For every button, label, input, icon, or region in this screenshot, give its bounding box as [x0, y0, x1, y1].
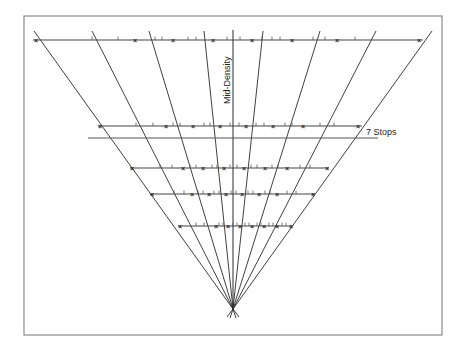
scale-row: ××××××××	[98, 123, 362, 130]
density-ray	[233, 31, 376, 309]
x-mark: ×	[271, 123, 275, 130]
x-mark: ×	[133, 37, 137, 44]
x-mark: ×	[201, 165, 205, 172]
density-ray	[92, 31, 233, 309]
seven-stops-label: 7 Stops	[366, 127, 397, 137]
density-ray	[149, 31, 233, 309]
x-mark: ×	[356, 123, 360, 130]
x-mark: ×	[325, 165, 329, 172]
x-mark: ×	[250, 37, 254, 44]
x-mark: ×	[301, 123, 305, 130]
x-mark: ×	[218, 123, 222, 130]
x-mark: ×	[289, 223, 293, 230]
x-mark: ×	[275, 191, 279, 198]
x-mark: ×	[226, 223, 230, 230]
x-mark: ×	[222, 165, 226, 172]
x-mark: ×	[164, 123, 168, 130]
x-mark: ×	[178, 223, 182, 230]
x-mark: ×	[250, 223, 254, 230]
x-mark: ×	[335, 37, 339, 44]
scale-row: ××××××××	[130, 165, 329, 172]
x-mark: ×	[207, 191, 211, 198]
x-mark: ×	[242, 165, 246, 172]
scale-row: ××××××××	[33, 37, 423, 44]
x-mark: ×	[238, 223, 242, 230]
x-mark: ×	[34, 37, 38, 44]
x-mark: ×	[311, 191, 315, 198]
x-mark: ×	[275, 223, 279, 230]
x-mark: ×	[417, 37, 421, 44]
x-mark: ×	[150, 191, 154, 198]
x-mark: ×	[240, 191, 244, 198]
x-mark: ×	[290, 37, 294, 44]
x-mark: ×	[285, 165, 289, 172]
x-mark: ×	[262, 223, 266, 230]
mid-density-label: Mid-Density	[222, 56, 232, 104]
scale-row: ××××××××	[178, 223, 293, 230]
x-mark: ×	[181, 165, 185, 172]
density-ray	[233, 31, 263, 309]
x-mark: ×	[171, 37, 175, 44]
x-mark: ×	[190, 191, 194, 198]
density-ray	[233, 31, 320, 309]
x-mark: ×	[263, 165, 267, 172]
x-mark: ×	[191, 123, 195, 130]
x-mark: ×	[257, 191, 261, 198]
x-mark: ×	[211, 37, 215, 44]
x-mark: ×	[98, 123, 102, 130]
zone-system-diagram: ××××××××××××××××××××××××××××××××××××××××…	[0, 0, 463, 350]
x-mark: ×	[130, 165, 134, 172]
x-mark: ×	[224, 191, 228, 198]
x-mark: ×	[244, 123, 248, 130]
x-mark: ×	[214, 223, 218, 230]
